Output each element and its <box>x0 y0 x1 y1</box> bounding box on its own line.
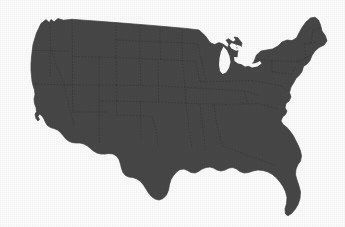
us-map-figure: Map of the contiguous United States Cont… <box>0 0 345 227</box>
us-map-svg <box>0 0 345 227</box>
